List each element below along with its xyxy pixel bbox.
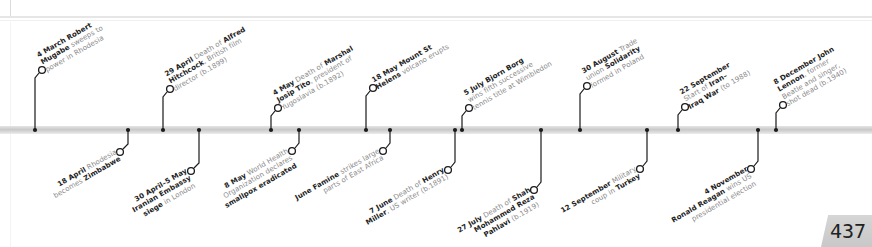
connector-line [194,130,199,168]
page-number: 437 [830,219,866,243]
connector-line [462,111,466,130]
timeline-dot [269,128,273,132]
connector-line [163,92,167,130]
timeline-dot [539,128,543,132]
connector-line [776,108,780,130]
connector-line [580,89,584,130]
timeline-connectors [0,0,872,247]
timeline-dot [388,128,392,132]
connector-line [537,130,541,187]
timeline-dot [774,128,778,132]
timeline-dot [126,128,130,132]
connector-line [754,130,758,166]
timeline-dot [297,128,301,132]
timeline-dot [161,128,165,132]
timeline-dot [756,128,760,132]
timeline-dot [578,128,582,132]
timeline-dot [460,128,464,132]
timeline-dot [197,128,201,132]
connector-line [386,130,390,148]
connector-line [678,110,682,130]
timeline-dot [33,128,37,132]
connector-line [451,130,455,167]
connector-line [271,111,275,130]
timeline-dot [453,128,457,132]
connector-line [643,130,647,166]
connector-line [123,130,128,149]
connector-line [295,130,299,148]
connector-line [35,73,39,130]
timeline-dot [645,128,649,132]
connector-line [366,91,370,130]
timeline-dot [676,128,680,132]
timeline-dot [364,128,368,132]
page-number-tab: 437 [821,215,872,247]
